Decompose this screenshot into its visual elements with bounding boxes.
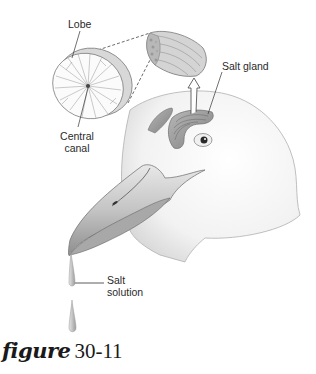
figure-caption-number: 30-11 <box>74 339 122 363</box>
central-canal-dot <box>86 84 90 88</box>
lobe-label: Lobe <box>68 18 91 30</box>
salt-drop-lower <box>69 300 76 332</box>
figure-caption-word: figure <box>2 338 70 363</box>
central-canal-label-line1: Central <box>52 130 102 142</box>
figure-caption: figure30-11 <box>2 338 123 364</box>
salt-drop-upper <box>69 252 75 286</box>
salt-solution-label: Salt solution <box>107 274 143 298</box>
central-canal-label: Central canal <box>52 130 102 154</box>
enlarged-gland-section <box>147 31 207 76</box>
bird-eye <box>194 134 212 147</box>
lobe-cross-section <box>42 36 144 130</box>
salt-solution-label-line1: Salt <box>107 274 143 286</box>
salt-gland-diagram <box>0 0 316 374</box>
central-canal-label-line2: canal <box>52 142 102 154</box>
salt-gland-label: Salt gland <box>222 60 269 72</box>
salt-solution-label-line2: solution <box>107 286 143 298</box>
